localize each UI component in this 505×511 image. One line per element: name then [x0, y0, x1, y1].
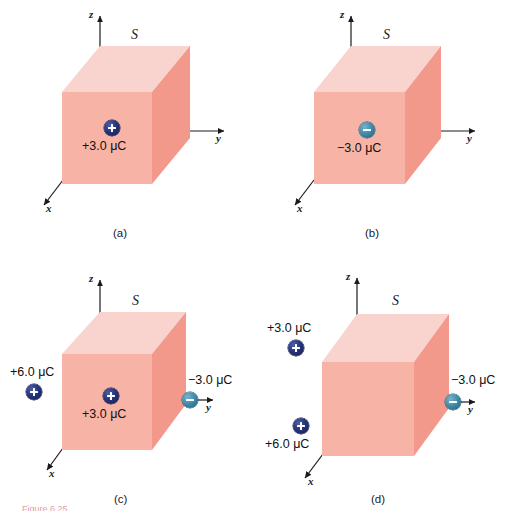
- surface-label-S: S: [383, 28, 390, 42]
- surface-label-S: S: [392, 294, 399, 308]
- axis-label-z: z: [340, 9, 344, 20]
- axis-label-x: x: [308, 476, 314, 487]
- plus-icon: [104, 120, 120, 136]
- charge-inside: [359, 122, 375, 138]
- panel-b-stage: S z y x −3.0 μC (b): [253, 0, 505, 255]
- panel-c: S z y x +6.0 μC +3.0 μC −3.0 μC: [0, 256, 252, 511]
- charge-inside-label: +3.0 μC: [82, 140, 126, 153]
- figure-gaussian-surfaces: S z y x +3.0 μC (a): [0, 0, 505, 511]
- panel-b: S z y x −3.0 μC (b): [253, 0, 505, 255]
- box-face-front: [62, 92, 152, 184]
- charge-outside-upper-left-label: +3.0 μC: [267, 322, 311, 335]
- panel-d: S z y x +3.0 μC +6.0 μC −3.0 μC: [253, 256, 505, 511]
- box-face-front: [314, 92, 405, 184]
- charge-on-surface-right-label: −3.0 μC: [188, 374, 232, 387]
- axis-label-z: z: [346, 271, 350, 282]
- minus-icon: [359, 122, 375, 138]
- axis-label-z: z: [89, 9, 93, 20]
- panel-a-stage: S z y x +3.0 μC (a): [0, 0, 252, 255]
- minus-icon: [182, 392, 198, 408]
- figure-caption: Figure 6.25: [22, 505, 68, 511]
- axis-label-x: x: [49, 468, 55, 479]
- charge-outside-lower-left: [293, 418, 309, 434]
- charge-outside-left-label: +6.0 μC: [10, 366, 54, 379]
- charge-inside: [104, 120, 120, 136]
- plus-icon: [288, 340, 304, 356]
- surface-label-S: S: [131, 28, 138, 42]
- box-faces: [253, 0, 505, 255]
- charge-inside-label: +3.0 μC: [82, 408, 126, 421]
- axis-label-y: y: [468, 404, 473, 415]
- charge-on-surface-right: [445, 394, 461, 410]
- plus-icon: [103, 388, 119, 404]
- axis-label-y: y: [216, 133, 221, 144]
- axis-label-x: x: [46, 203, 52, 214]
- charge-outside-upper-left: [288, 340, 304, 356]
- plus-icon: [26, 384, 42, 400]
- axis-label-y: y: [206, 402, 211, 413]
- charge-inside-label: −3.0 μC: [337, 142, 381, 155]
- axis-label-x: x: [297, 203, 303, 214]
- plus-icon: [293, 418, 309, 434]
- charge-outside-lower-left-label: +6.0 μC: [265, 438, 309, 451]
- axis-label-z: z: [89, 273, 93, 284]
- charge-on-surface-right: [182, 392, 198, 408]
- panel-c-stage: S z y x +6.0 μC +3.0 μC −3.0 μC: [0, 256, 252, 511]
- minus-icon: [445, 394, 461, 410]
- panel-a: S z y x +3.0 μC (a): [0, 0, 252, 255]
- axis-label-y: y: [467, 133, 472, 144]
- panel-b-caption: (b): [365, 228, 379, 240]
- panel-d-stage: S z y x +3.0 μC +6.0 μC −3.0 μC: [253, 256, 505, 511]
- charge-on-surface-right-label: −3.0 μC: [451, 374, 495, 387]
- charge-outside-left: [26, 384, 42, 400]
- box-faces: [0, 0, 252, 255]
- charge-inside: [103, 388, 119, 404]
- panel-d-caption: (d): [371, 494, 385, 506]
- box-face-front: [322, 362, 414, 456]
- surface-label-S: S: [132, 294, 139, 308]
- panel-c-caption: (c): [114, 494, 127, 506]
- panel-a-caption: (a): [113, 228, 127, 240]
